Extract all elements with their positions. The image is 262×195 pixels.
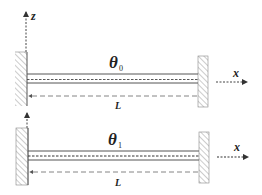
theta-0-label: θ (109, 53, 118, 72)
theta-1-subscript: 1 (118, 141, 122, 150)
x-axis-label-top: x (232, 66, 239, 80)
right-wall-top (198, 56, 208, 107)
length-label-bottom: L (114, 177, 121, 188)
top-beam-group: z θ 0 L x (15, 9, 247, 111)
left-wall-top (15, 52, 27, 106)
left-wall-bottom (16, 128, 28, 185)
bottom-beam-group: θ 1 L x (16, 113, 248, 188)
beam-diagram: z θ 0 L x (0, 0, 262, 195)
right-wall-bottom (199, 132, 209, 183)
z-axis-label: z (30, 9, 36, 23)
length-label-top: L (114, 100, 121, 111)
x-axis-label-bottom: x (233, 140, 240, 154)
theta-0-subscript: 0 (119, 64, 123, 73)
theta-1-label: θ (108, 130, 117, 149)
